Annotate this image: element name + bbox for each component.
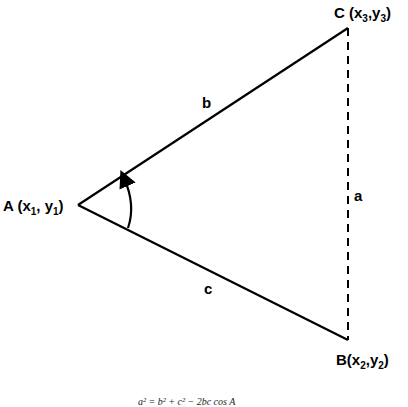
side-c xyxy=(78,205,348,340)
side-c-label: c xyxy=(204,280,212,297)
vertex-b-label: B(x2,y2) xyxy=(336,351,389,371)
side-a-label: a xyxy=(354,187,363,204)
vertex-a-label: A (x1, y1) xyxy=(3,197,64,217)
angle-arc-icon xyxy=(124,178,131,228)
triangle-diagram: A (x1, y1) C (x3,y3) B(x2,y2) b c a a² =… xyxy=(0,0,408,407)
side-b xyxy=(78,28,348,205)
vertex-c-label: C (x3,y3) xyxy=(334,4,391,24)
law-of-cosines-formula: a² = b² + c² − 2bc cos A xyxy=(138,396,236,407)
side-b-label: b xyxy=(202,94,211,111)
